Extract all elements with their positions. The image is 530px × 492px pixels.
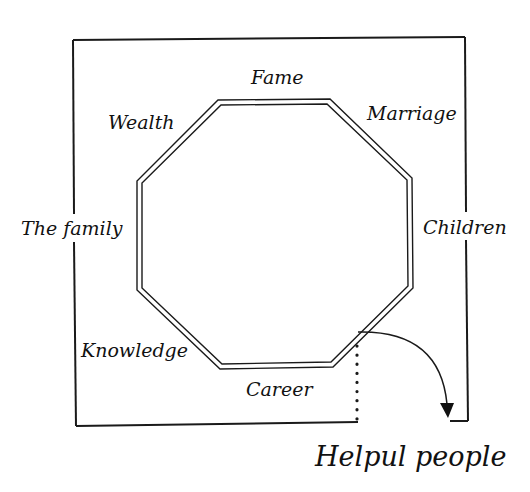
bagua-diagram: Fame Wealth Marriage The family Children… — [0, 0, 530, 492]
curved-arrow — [358, 332, 454, 418]
label-wealth: Wealth — [108, 113, 175, 132]
label-career: Career — [246, 380, 313, 399]
label-the-family: The family — [21, 219, 122, 238]
label-fame: Fame — [251, 68, 303, 87]
label-helpful-people: Helpul people — [315, 443, 506, 470]
label-knowledge: Knowledge — [81, 341, 188, 360]
center-octagon — [137, 99, 413, 369]
label-children: Children — [423, 218, 507, 237]
label-marriage: Marriage — [367, 104, 457, 123]
arrowhead-icon — [440, 403, 454, 418]
